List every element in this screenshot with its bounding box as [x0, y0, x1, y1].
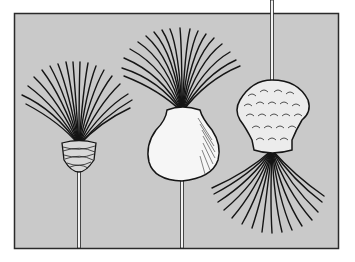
- middle-stem: [181, 178, 184, 248]
- illustration: [0, 0, 355, 262]
- right-stem: [271, 0, 274, 82]
- left-stem: [78, 170, 81, 248]
